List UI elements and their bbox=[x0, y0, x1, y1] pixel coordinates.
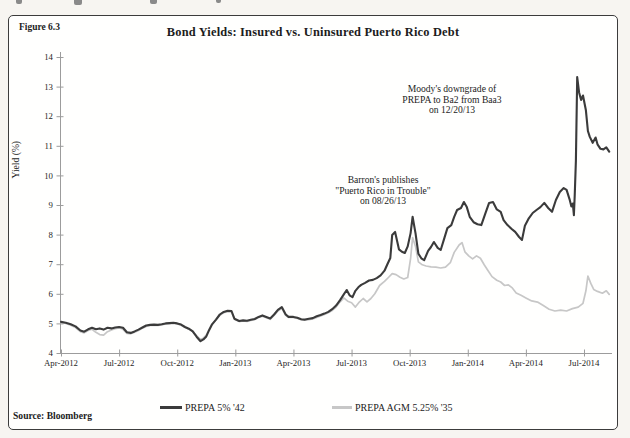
y-tick-label: 12 bbox=[44, 111, 53, 121]
legend-label: PREPA 5% '42 bbox=[185, 402, 245, 413]
x-tick-label: Jan-2014 bbox=[452, 358, 485, 368]
y-tick-label: 10 bbox=[44, 171, 53, 181]
x-tick-label: Apr-2012 bbox=[44, 358, 78, 368]
y-tick-label: 6 bbox=[49, 289, 54, 299]
y-tick-label: 8 bbox=[49, 230, 54, 240]
legend-line-swatch-dark bbox=[160, 406, 182, 408]
series-line bbox=[61, 77, 609, 341]
x-tick-label: Apr-2014 bbox=[509, 358, 544, 368]
y-tick-label: 5 bbox=[49, 319, 54, 329]
line-chart-plot: 4567891011121314Apr-2012Jul-2012Oct-2012… bbox=[0, 0, 630, 438]
x-tick-label: Jul-2013 bbox=[336, 358, 367, 368]
x-tick-label: Jan-2013 bbox=[219, 358, 252, 368]
x-tick-label: Oct-2012 bbox=[161, 358, 194, 368]
y-tick-label: 13 bbox=[44, 82, 53, 92]
x-tick-label: Oct-2013 bbox=[393, 358, 427, 368]
x-tick-label: Jul-2012 bbox=[104, 358, 135, 368]
y-tick-label: 9 bbox=[49, 200, 54, 210]
x-tick-label: Jul-2014 bbox=[569, 358, 600, 368]
source-note: Source: Bloomberg bbox=[13, 410, 92, 421]
y-axis-title: Yield (%) bbox=[10, 165, 21, 179]
legend-item-prepa-insured: PREPA AGM 5.25% '35 bbox=[332, 402, 453, 413]
legend-line-swatch-gray bbox=[332, 406, 352, 408]
series-line bbox=[61, 238, 609, 340]
scanned-page: Figure 6.3 Bond Yields: Insured vs. Unin… bbox=[0, 0, 630, 438]
y-tick-label: 14 bbox=[44, 52, 53, 62]
legend-item-prepa-uninsured: PREPA 5% '42 bbox=[160, 402, 245, 413]
y-tick-label: 11 bbox=[45, 141, 53, 151]
x-tick-label: Apr-2013 bbox=[276, 358, 311, 368]
legend-label: PREPA AGM 5.25% '35 bbox=[355, 402, 453, 413]
chart-legend: PREPA 5% '42 PREPA AGM 5.25% '35 bbox=[0, 402, 630, 418]
y-tick-label: 7 bbox=[49, 259, 54, 269]
